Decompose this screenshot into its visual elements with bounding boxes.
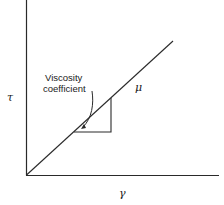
viscosity-line bbox=[27, 41, 174, 175]
x-axis-label-gamma: γ bbox=[119, 187, 126, 200]
annotation-line2: coefficient bbox=[43, 83, 86, 94]
line-label-mu: μ bbox=[135, 81, 142, 94]
y-axis-label-tau: τ bbox=[7, 91, 14, 104]
shear-stress-diagram: Viscosity coefficient μ τ γ bbox=[0, 0, 224, 205]
annotation-line1: Viscosity bbox=[45, 72, 83, 83]
